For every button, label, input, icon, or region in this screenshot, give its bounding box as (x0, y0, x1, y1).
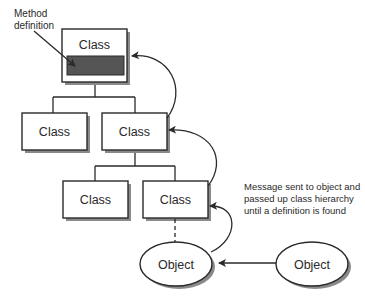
message-note: Message sent to object and passed up cla… (244, 181, 360, 216)
object-ellipse-sender: Object (276, 242, 351, 289)
method-definition-label-line2: definition (14, 20, 54, 31)
class-box-root: Class (62, 29, 130, 85)
class-label: Class (119, 125, 150, 139)
class-box-level2-left: Class (22, 113, 90, 153)
class-hierarchy-diagram: Method definition Class Class Class Clas… (0, 0, 365, 305)
object-ellipse-instance: Object (140, 242, 215, 289)
svg-text:Message sent to object and: Message sent to object and (244, 181, 360, 192)
class-label: Class (80, 193, 111, 207)
class-box-level2-right: Class (102, 113, 170, 153)
class-label: Class (160, 193, 191, 207)
method-definition-label-line1: Method (14, 8, 47, 19)
object-label: Object (158, 258, 195, 272)
class-label: Class (79, 38, 110, 52)
lookup-arrow-object-to-level3 (210, 206, 232, 252)
lookup-arrow-level3-to-level2 (169, 130, 217, 186)
method-definition-block (67, 56, 124, 75)
class-box-level3-left: Class (63, 181, 131, 221)
svg-text:passed up class hierarchy: passed up class hierarchy (244, 193, 354, 204)
lookup-arrow-level2-to-root (132, 56, 176, 118)
object-label: Object (294, 258, 331, 272)
class-box-level3-right: Class (143, 181, 211, 221)
class-label: Class (39, 125, 70, 139)
svg-text:until a definition is found: until a definition is found (244, 205, 346, 216)
